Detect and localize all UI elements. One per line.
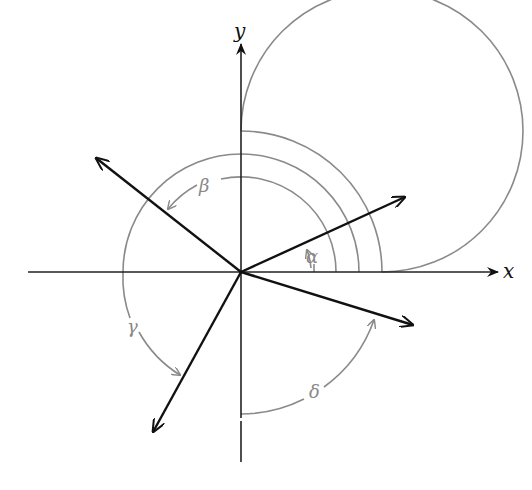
inner-circle-arc xyxy=(221,177,336,272)
delta-arc-left xyxy=(241,399,304,414)
beta-arc xyxy=(168,185,197,209)
beta-label: β xyxy=(198,175,209,196)
delta-arc xyxy=(324,320,374,387)
vectors xyxy=(96,158,413,432)
axes: x y xyxy=(28,19,514,462)
gamma-arc-upper xyxy=(123,272,130,318)
delta-label: δ xyxy=(309,381,320,402)
beta-vector xyxy=(96,158,241,272)
gamma-arc xyxy=(139,332,180,375)
angle-diagram: x y α β γ δ xyxy=(0,0,532,490)
angle-arcs xyxy=(123,185,374,414)
alpha-label: α xyxy=(306,246,318,267)
x-axis-label: x xyxy=(503,259,514,283)
alpha-vector xyxy=(241,197,405,272)
delta-vector xyxy=(241,272,413,325)
reference-circles xyxy=(123,0,523,272)
gamma-label: γ xyxy=(127,316,138,337)
outer-circle-arc xyxy=(241,0,523,272)
gamma-vector xyxy=(153,272,241,432)
y-axis-label: y xyxy=(233,19,246,43)
